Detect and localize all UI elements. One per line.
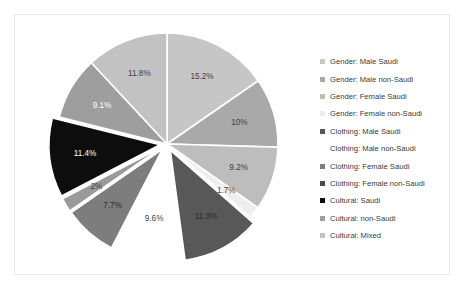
pie-slice-label: 11.4% [74, 149, 97, 158]
legend-item-label: Cultural: non-Saudi [330, 214, 395, 223]
legend-item-label: Clothing: Male non-Saudi [330, 144, 416, 153]
pie-slice-label: 2% [90, 182, 102, 191]
pie-slice-label: 7.7% [103, 201, 122, 210]
legend-color-swatch [320, 59, 325, 64]
legend-color-swatch [320, 216, 325, 221]
legend-item-label: Clothing: Female Saudi [330, 162, 409, 171]
legend-item-label: Cultural: Mixed [330, 231, 381, 240]
chart-legend: Gender: Male SaudiGender: Male non-Saudi… [320, 53, 448, 244]
pie-slice-label: 1.7% [217, 186, 236, 195]
legend-color-swatch [320, 233, 325, 238]
legend-color-swatch [320, 129, 325, 134]
pie-slice-label: 9.2% [229, 163, 248, 172]
legend-item[interactable]: Clothing: Female Saudi [320, 157, 448, 174]
legend-color-swatch [320, 198, 325, 203]
legend-item-label: Clothing: Female non-Saudi [330, 179, 425, 188]
legend-item[interactable]: Cultural: non-Saudi [320, 210, 448, 227]
legend-item[interactable]: Gender: Female non-Saudi [320, 105, 448, 122]
legend-item[interactable]: Clothing: Female non-Saudi [320, 175, 448, 192]
pie-slice-label: 9.6% [145, 214, 164, 223]
pie-slice-label: 9.1% [93, 101, 112, 110]
pie-slice-group [49, 33, 278, 260]
legend-item[interactable]: Clothing: Male non-Saudi [320, 140, 448, 157]
legend-color-swatch [320, 146, 325, 151]
plot-frame: 15.2%10%9.2%1.7%11.3%9.6%7.7%2%11.4%9.1%… [14, 14, 450, 275]
pie-slice-label: 15.2% [190, 72, 213, 81]
legend-item-label: Gender: Female Saudi [330, 92, 407, 101]
legend-item-label: Gender: Male Saudi [330, 57, 398, 66]
legend-color-swatch [320, 181, 325, 186]
legend-item[interactable]: Gender: Male non-Saudi [320, 70, 448, 87]
legend-item[interactable]: Clothing: Male Saudi [320, 123, 448, 140]
pie-slice-label: 11.3% [195, 212, 218, 221]
legend-item-label: Cultural: Saudi [330, 196, 380, 205]
legend-item[interactable]: Gender: Female Saudi [320, 88, 448, 105]
legend-item-label: Gender: Female non-Saudi [330, 109, 422, 118]
pie-chart-svg: 15.2%10%9.2%1.7%11.3%9.6%7.7%2%11.4%9.1%… [15, 15, 315, 274]
pie-slice-label: 11.8% [128, 69, 151, 78]
legend-color-swatch [320, 111, 325, 116]
legend-item-label: Gender: Male non-Saudi [330, 75, 413, 84]
legend-color-swatch [320, 94, 325, 99]
pie-chart-area: 15.2%10%9.2%1.7%11.3%9.6%7.7%2%11.4%9.1%… [15, 15, 315, 274]
legend-item[interactable]: Cultural: Saudi [320, 192, 448, 209]
legend-color-swatch [320, 77, 325, 82]
pie-slice-label: 10% [231, 118, 247, 127]
legend-item[interactable]: Gender: Male Saudi [320, 53, 448, 70]
pie-chart-figure: 15.2%10%9.2%1.7%11.3%9.6%7.7%2%11.4%9.1%… [0, 0, 464, 289]
legend-item[interactable]: Cultural: Mixed [320, 227, 448, 244]
legend-item-label: Clothing: Male Saudi [330, 127, 400, 136]
legend-color-swatch [320, 164, 325, 169]
